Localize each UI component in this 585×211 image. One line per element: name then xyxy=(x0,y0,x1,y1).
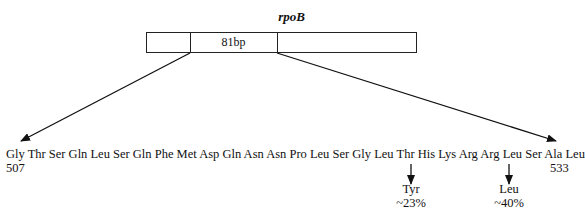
start-position: 507 xyxy=(6,161,25,176)
mutation-residue: Tyr xyxy=(386,182,436,196)
mutation-frequency: ~40% xyxy=(484,196,534,210)
amino-acid-sequence: Gly Thr Ser Gln Leu Ser Gln Phe Met Asp … xyxy=(6,147,585,162)
region-label: 81bp xyxy=(190,35,277,50)
mutation-residue: Leu xyxy=(484,182,534,196)
mutation-ser-leu: Leu ~40% xyxy=(484,182,534,210)
end-position: 533 xyxy=(550,161,569,176)
mutation-frequency: ~23% xyxy=(386,196,436,210)
mutation-his-tyr: Tyr ~23% xyxy=(386,182,436,210)
left-expansion-arrow xyxy=(21,53,190,141)
gene-box xyxy=(147,33,417,53)
right-expansion-arrow xyxy=(277,53,556,141)
